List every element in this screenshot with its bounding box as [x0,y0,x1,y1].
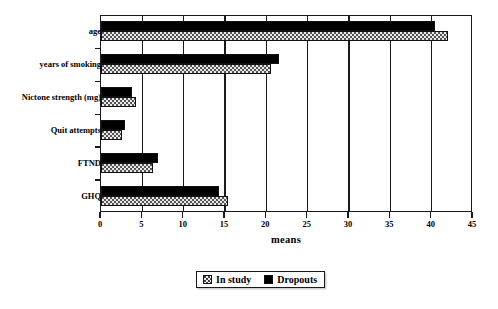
x-axis-tick-35 [389,212,391,218]
bar-in-study [101,31,448,41]
x-axis-tick-label-25: 25 [295,219,319,229]
bar-in-study [101,196,228,206]
instudy-swatch-icon [203,275,212,284]
y-axis-label-4: Quit attempts [0,125,101,135]
bar-group [101,21,473,43]
y-axis-label-5: FTND [0,158,101,168]
x-axis-tick-label-10: 10 [171,219,195,229]
gridline-10 [183,16,185,211]
x-axis-tick-label-45: 45 [460,219,484,229]
plot-area [100,15,472,212]
bar-dropouts [101,186,219,196]
x-axis-tick-5 [141,212,143,218]
bar-in-study [101,64,271,74]
gridline-20 [266,16,268,211]
x-axis-tick-0 [99,212,101,218]
bar-dropouts [101,120,125,130]
x-axis-tick-20 [265,212,267,218]
chart-legend: In study Dropouts [196,271,325,288]
legend-label-in-study: In study [216,274,251,285]
y-axis-tick [95,48,100,50]
bar-in-study [101,163,153,173]
y-axis-label-text: age [89,26,101,36]
y-axis-label-text: FTND [78,158,101,168]
bar-group [101,153,473,175]
x-axis-tick-45 [471,212,473,218]
bar-dropouts [101,21,435,31]
y-axis-tick [95,81,100,83]
bar-dropouts [101,54,279,64]
x-axis-tick-label-5: 5 [129,219,153,229]
x-axis-tick-label-30: 30 [336,219,360,229]
gridline-40 [431,16,433,211]
bar-in-study [101,97,136,107]
y-axis-tick [95,179,100,181]
x-axis-title: means [100,234,472,245]
y-axis-tick [95,114,100,116]
gridline-5 [142,16,144,211]
gridline-15 [224,16,226,211]
x-axis-tick-label-15: 15 [212,219,236,229]
bar-group [101,186,473,208]
x-axis-tick-label-35: 35 [377,219,401,229]
bar-group [101,120,473,142]
y-axis-label-text: years of smoking [40,59,101,69]
y-axis-label-text: GHQ [81,191,101,201]
bar-dropouts [101,153,158,163]
legend-item-dropouts: Dropouts [264,274,317,285]
x-axis-tick-label-0: 0 [88,219,112,229]
x-axis-tick-40 [430,212,432,218]
x-axis-tick-label-20: 20 [253,219,277,229]
x-axis-tick-25 [306,212,308,218]
x-axis-tick-15 [223,212,225,218]
gridline-35 [390,16,392,211]
y-axis-label-1: age [0,26,101,36]
bar-in-study [101,130,122,140]
gridline-25 [307,16,309,211]
y-axis-label-text: Nictone strength (mg) [22,92,101,102]
y-axis-tick [95,146,100,148]
bar-dropouts [101,87,132,97]
y-axis-label-3: Nictone strength (mg) [0,92,101,102]
bar-group [101,54,473,76]
y-axis-label-2: years of smoking [0,59,101,69]
y-axis-label-6: GHQ [0,191,101,201]
x-axis-tick-label-40: 40 [419,219,443,229]
dropouts-swatch-icon [264,275,273,284]
x-axis-tick-10 [182,212,184,218]
bar-chart: ageyears of smokingNictone strength (mg)… [0,0,498,309]
legend-label-dropouts: Dropouts [277,274,317,285]
bar-group [101,87,473,109]
x-axis-tick-30 [347,212,349,218]
gridline-30 [348,16,350,211]
y-axis-label-text: Quit attempts [51,125,101,135]
legend-item-in-study: In study [203,274,251,285]
